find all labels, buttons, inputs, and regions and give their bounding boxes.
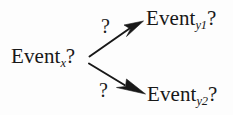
node-target-2-suffix: ?: [208, 82, 217, 106]
node-source-event: Eventx?: [11, 46, 75, 67]
node-source-base: Event: [11, 44, 60, 68]
edge-lower-arrowhead: [117, 79, 146, 94]
edge-label-upper: ?: [101, 16, 110, 36]
edge-upper-shaft: [90, 28, 132, 57]
node-target-event-y1: Eventy1?: [146, 8, 216, 29]
edge-arrow-lower: [89, 64, 146, 95]
edge-arrow-upper: [90, 21, 144, 57]
node-target-1-subscript: y1: [195, 18, 206, 32]
node-source-subscript: x: [60, 56, 65, 70]
edge-upper-arrowhead: [124, 21, 144, 37]
node-source-suffix: ?: [66, 44, 75, 68]
node-target-1-suffix: ?: [207, 6, 216, 30]
node-target-event-y2: Eventy2?: [147, 84, 217, 105]
node-target-1-base: Event: [146, 6, 195, 30]
edge-label-lower: ?: [99, 80, 108, 100]
node-target-2-subscript: y2: [196, 94, 207, 108]
diagram-canvas: Eventx? Eventy1? Eventy2? ? ?: [0, 0, 233, 115]
node-target-2-base: Event: [147, 82, 196, 106]
